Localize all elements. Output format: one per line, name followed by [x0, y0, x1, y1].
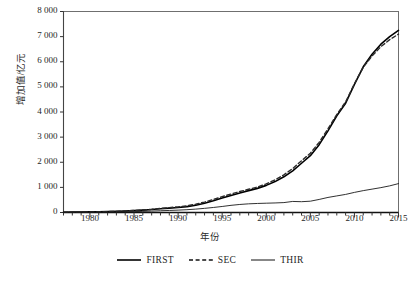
legend-item-first[interactable]: FIRST [116, 255, 173, 265]
legend-item-sec[interactable]: SEC [188, 255, 236, 265]
legend-line-swatch [116, 256, 142, 264]
legend-item-thir[interactable]: THIR [250, 255, 303, 265]
series-line-first [64, 30, 399, 212]
legend-line-swatch [188, 256, 214, 264]
legend-item-label: SEC [218, 255, 236, 265]
chart-legend: FIRSTSECTHIR [0, 255, 420, 265]
legend-item-label: FIRST [146, 255, 173, 265]
plot-frame [64, 12, 399, 213]
series-line-sec [64, 34, 399, 212]
series-line-thir [64, 184, 399, 213]
chart-figure: 增加值/亿元 年份 01 0002 0003 0004 0005 0006 00… [0, 0, 420, 281]
plot-area [0, 0, 420, 281]
legend-line-swatch [250, 256, 276, 264]
legend-item-label: THIR [280, 255, 303, 265]
